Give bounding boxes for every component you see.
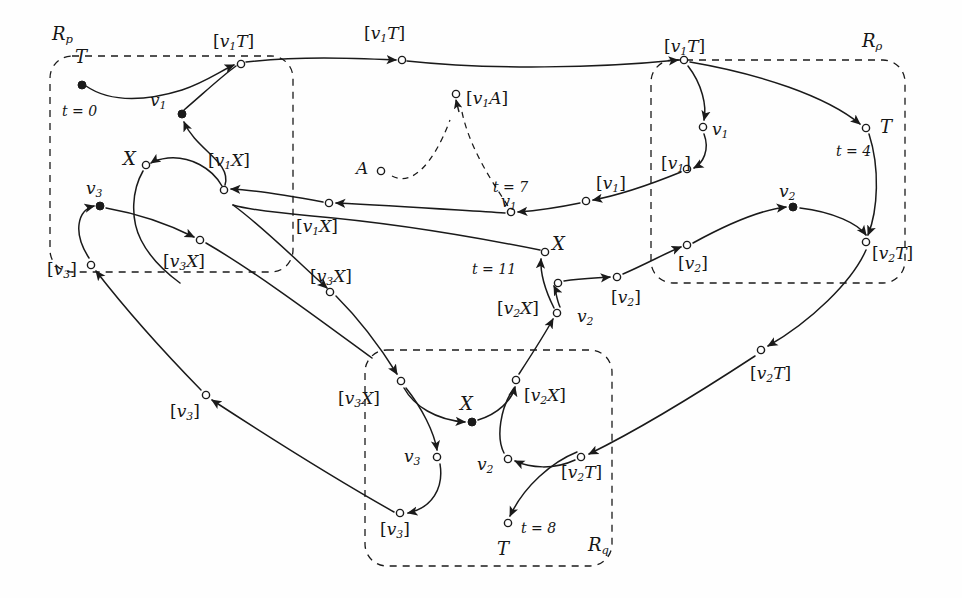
node-X-bottom bbox=[468, 418, 476, 426]
edge-Xbottom-to-v2Xb bbox=[478, 387, 515, 420]
time-label-t8: t = 8 bbox=[521, 521, 556, 535]
region-label-rp: Rp bbox=[52, 25, 73, 46]
node-label-v2-mid: v2 bbox=[577, 308, 594, 328]
edge-label-v2T-mid: [v2T] bbox=[750, 365, 791, 385]
edge-v2Xb-to-v2bottom bbox=[500, 388, 514, 453]
edge-v3a-to-v3upper bbox=[79, 206, 94, 258]
edge-label-v3X-c: [v3X] bbox=[338, 390, 380, 410]
node-v3-b bbox=[202, 391, 209, 398]
node-v2-mid bbox=[554, 279, 561, 286]
node-v1T-a bbox=[237, 60, 244, 67]
edge-v2Xb-to-v2Xa bbox=[519, 319, 553, 374]
node-v2T-top bbox=[862, 238, 869, 245]
edge-label-v2-b: [v2] bbox=[611, 289, 641, 309]
node-v3-c bbox=[396, 509, 403, 516]
edge-label-v3X-a: [v3X] bbox=[163, 253, 205, 273]
edge-v3Xc-to-Xbottom bbox=[404, 388, 465, 422]
node-label-X-bottom: X bbox=[460, 395, 473, 413]
time-label-t4: t = 4 bbox=[836, 144, 871, 158]
edge-label-v1X-a: [v1X] bbox=[208, 152, 250, 172]
edge-v1Tc-to-v1right bbox=[688, 66, 705, 120]
node-v1-left bbox=[178, 110, 186, 118]
node-label-v2-bottom: v2 bbox=[477, 456, 494, 476]
node-v2-a bbox=[683, 241, 690, 248]
node-label-v3-bottom: v3 bbox=[404, 448, 421, 468]
edge-label-v3X-b: [v3X] bbox=[310, 268, 352, 288]
region-label-rq: Rq bbox=[588, 536, 609, 557]
node-v1T-b bbox=[398, 56, 405, 63]
diagram-canvas: RpRρRqTt = 0v1[v1T][v1T][v1T]X[v1X][v1X]… bbox=[0, 0, 962, 598]
node-v2X-b bbox=[512, 376, 519, 383]
node-v1-right bbox=[699, 123, 706, 130]
edge-label-v1-b: [v1] bbox=[661, 155, 691, 175]
edge-v2a-to-v2right bbox=[693, 207, 786, 243]
edge-paths bbox=[79, 58, 877, 516]
time-label-t11: t = 11 bbox=[472, 262, 516, 276]
edge-v3X-a-to-v3X-c bbox=[206, 243, 372, 358]
edge-label-v1A: [v1A] bbox=[466, 90, 508, 110]
node-label-v3-upper: v3 bbox=[86, 180, 103, 200]
node-v2X-a bbox=[553, 309, 560, 316]
edge-label-v1T-c: [v1T] bbox=[664, 38, 705, 58]
node-A bbox=[377, 167, 384, 174]
time-label-t7: t = 7 bbox=[493, 180, 528, 194]
edge-v3b-to-v3a bbox=[96, 271, 201, 390]
edge-v1right-to-v1b bbox=[694, 134, 706, 168]
node-v3X-c bbox=[397, 377, 404, 384]
node-v3-a bbox=[87, 261, 94, 268]
node-label-X-t11: X bbox=[552, 235, 565, 253]
node-label-v1-right: v1 bbox=[712, 121, 729, 141]
node-label-v1-left: v1 bbox=[150, 92, 167, 112]
node-v1X-a bbox=[220, 186, 227, 193]
edge-v3upper-to-v3X-a bbox=[106, 208, 194, 237]
time-label-t0: t = 0 bbox=[62, 104, 97, 118]
edge-label-v2T-bottom: [v2T] bbox=[561, 464, 602, 484]
edge-v1a-to-v1mid bbox=[518, 203, 580, 212]
edge-label-v3-b: [v3] bbox=[170, 403, 200, 423]
region-boundaries bbox=[50, 56, 905, 566]
edge-v1left-to-v1T-a bbox=[184, 66, 236, 110]
arrow-v1A bbox=[456, 100, 459, 112]
node-label-X-upper: X bbox=[123, 150, 136, 168]
node-v3X-b bbox=[326, 288, 333, 295]
node-v3-upper bbox=[96, 202, 104, 210]
edge-v3bottom-to-v3c bbox=[408, 464, 441, 513]
region-box-rp bbox=[50, 56, 293, 272]
edge-v3X-b-to-v3X-c bbox=[336, 296, 397, 374]
node-T-t8 bbox=[504, 519, 511, 526]
edge-v3c-to-v3b bbox=[212, 400, 394, 512]
edge-label-v2T-top: [v2T] bbox=[872, 245, 913, 265]
node-v2T-mid bbox=[757, 346, 764, 353]
edge-label-v1-a: [v1] bbox=[596, 175, 626, 195]
edge-label-v2-a: [v2] bbox=[678, 255, 708, 275]
node-label-T-t8: T bbox=[497, 540, 509, 558]
edge-v1X-b-to-a bbox=[231, 189, 323, 202]
node-T-t4 bbox=[862, 124, 869, 131]
node-v2-right bbox=[789, 203, 797, 211]
edge-v2Xa-to-v2mid bbox=[554, 286, 560, 307]
edge-v2Ttop-to-v2Tmid bbox=[768, 250, 866, 346]
edge-mid-to-v1X-b bbox=[336, 203, 505, 213]
edge-label-v2X-b: [v2X] bbox=[524, 387, 566, 407]
node-v1A bbox=[452, 90, 459, 97]
edge-v1T-b-to-c bbox=[407, 60, 678, 67]
node-X-t11 bbox=[541, 248, 548, 255]
node-v2-b bbox=[613, 273, 620, 280]
edge-label-v1X-b: [v1X] bbox=[296, 218, 338, 238]
edge-v2Tmid-to-v2Tbottom bbox=[589, 356, 755, 454]
node-label-v2-right: v2 bbox=[779, 183, 796, 203]
node-T-start bbox=[78, 81, 86, 89]
node-label-v1-mid: v1 bbox=[501, 194, 517, 211]
edge-label-v1T-b: [v1T] bbox=[364, 25, 405, 45]
edge-label-v2X-a: [v2X] bbox=[497, 300, 539, 320]
node-v3X-a bbox=[196, 236, 203, 243]
node-label-T-t4: T bbox=[880, 118, 892, 136]
edge-label-v1T-a: [v1T] bbox=[213, 33, 254, 53]
node-v2-bottom bbox=[504, 455, 511, 462]
graph-nodes bbox=[78, 56, 870, 526]
dashed-a-branch bbox=[392, 112, 508, 206]
node-label-A: A bbox=[356, 160, 368, 177]
edge-label-v3-c: [v3] bbox=[380, 521, 410, 541]
edge-v2right-to-v2Ttop bbox=[800, 208, 866, 235]
edge-v2mid-to-v2b bbox=[564, 277, 610, 281]
